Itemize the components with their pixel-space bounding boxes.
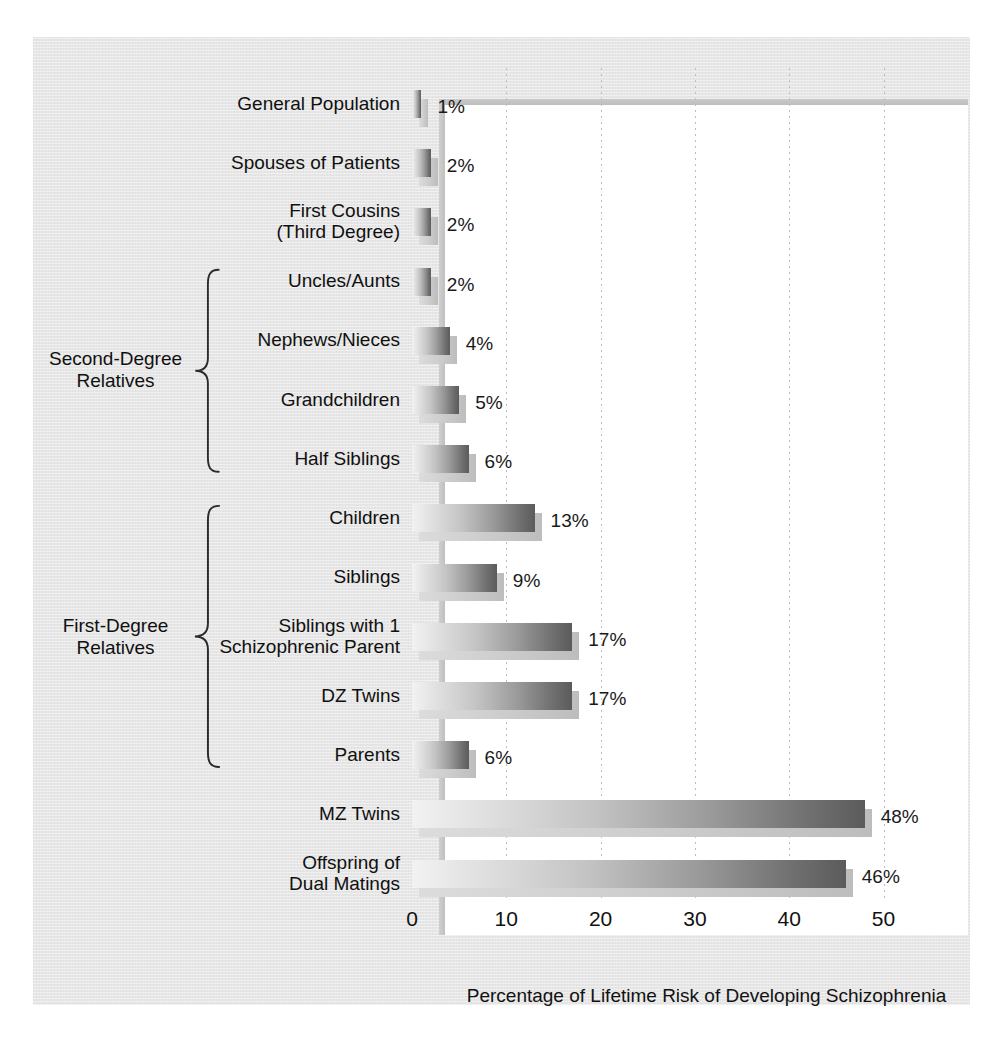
bar: [412, 860, 846, 888]
x-tick-label-30: 30: [683, 908, 706, 929]
gridline-40: [789, 68, 790, 898]
category-label: General Population: [100, 93, 400, 114]
bar-row: [412, 327, 460, 355]
bar-value-label: 2%: [447, 215, 474, 234]
bar-value-label: 48%: [881, 807, 919, 826]
bar-row: [412, 741, 479, 769]
bar: [412, 268, 431, 296]
category-label: DZ Twins: [100, 685, 400, 706]
bar-value-label: 46%: [862, 867, 900, 886]
x-tick-label-10: 10: [495, 908, 518, 929]
x-tick-label-20: 20: [589, 908, 612, 929]
category-label: Parents: [100, 744, 400, 765]
bar-row: [412, 386, 469, 414]
bar-value-label: 2%: [447, 275, 474, 294]
bar-row: [412, 564, 507, 592]
category-label: Uncles/Aunts: [100, 270, 400, 291]
group-label-first-degree: First-Degree Relatives: [43, 615, 188, 659]
bar-row: [412, 90, 431, 118]
bar-row: [412, 268, 441, 296]
bar-value-label: 17%: [588, 689, 626, 708]
gridline-10: [506, 68, 507, 898]
bar: [412, 741, 469, 769]
bar-value-label: 5%: [475, 393, 502, 412]
bar-row: [412, 208, 441, 236]
bar-value-label: 6%: [485, 452, 512, 471]
bar-row: [412, 860, 856, 888]
bar-value-label: 2%: [447, 156, 474, 175]
category-label: Spouses of Patients: [100, 152, 400, 173]
bar-value-label: 9%: [513, 571, 540, 590]
bar-row: [412, 445, 479, 473]
category-label: Half Siblings: [100, 448, 400, 469]
bar-value-label: 1%: [437, 97, 464, 116]
gridline-20: [601, 68, 602, 898]
x-axis-title: Percentage of Lifetime Risk of Developin…: [445, 985, 968, 1007]
category-label: Children: [100, 507, 400, 528]
gridline-50: [884, 68, 885, 898]
bar-row: [412, 800, 875, 828]
x-tick-label-0: 0: [406, 908, 418, 929]
brace-first-degree: [190, 504, 224, 769]
gridline-30: [695, 68, 696, 898]
bar: [412, 90, 421, 118]
figure-panel: 1%2%2%2%4%5%6%13%9%17%17%6%48%46% Genera…: [33, 37, 970, 1005]
bar-value-label: 6%: [485, 748, 512, 767]
category-label: Nephews/Nieces: [100, 329, 400, 350]
bar-value-label: 17%: [588, 630, 626, 649]
bar: [412, 149, 431, 177]
bar: [412, 327, 450, 355]
bar: [412, 564, 497, 592]
bar-row: [412, 623, 582, 651]
bar: [412, 682, 572, 710]
bar: [412, 623, 572, 651]
bar: [412, 208, 431, 236]
category-label: Siblings: [100, 566, 400, 587]
bar: [412, 386, 459, 414]
group-label-second-degree: Second-Degree Relatives: [43, 348, 188, 392]
bar-value-label: 13%: [551, 511, 589, 530]
brace-second-degree: [190, 268, 224, 474]
bar: [412, 800, 865, 828]
category-label: MZ Twins: [100, 803, 400, 824]
category-label: First Cousins (Third Degree): [100, 200, 400, 242]
x-tick-label-40: 40: [778, 908, 801, 929]
bar-row: [412, 682, 582, 710]
x-tick-label-50: 50: [872, 908, 895, 929]
category-label: Offspring of Dual Matings: [100, 852, 400, 894]
bar-value-label: 4%: [466, 334, 493, 353]
bar-row: [412, 504, 545, 532]
bar-row: [412, 149, 441, 177]
bar: [412, 445, 469, 473]
bar: [412, 504, 535, 532]
